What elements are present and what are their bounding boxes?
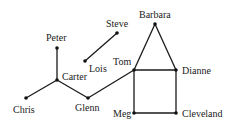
node-cleveland — [174, 111, 178, 115]
edge-glenn-tom — [88, 70, 134, 98]
node-barbara — [153, 22, 157, 26]
edge-carter-chris — [26, 80, 57, 98]
node-peter — [55, 46, 59, 50]
node-label-meg: Meg — [113, 108, 131, 119]
node-label-lois: Lois — [89, 63, 107, 74]
node-label-peter: Peter — [46, 32, 67, 43]
node-label-cleveland: Cleveland — [182, 108, 223, 119]
node-meg — [132, 111, 136, 115]
node-chris — [24, 96, 28, 100]
node-carter — [55, 78, 59, 82]
node-label-carter: Carter — [62, 71, 88, 82]
edge-barbara-dianne — [155, 24, 176, 70]
social-network-graph: PeterCarterChrisGlennLoisSteveTomBarbara… — [0, 0, 231, 125]
node-label-barbara: Barbara — [139, 9, 171, 20]
edge-tom-barbara — [134, 24, 155, 70]
node-label-steve: Steve — [106, 18, 129, 29]
node-dianne — [174, 68, 178, 72]
node-label-dianne: Dianne — [182, 65, 211, 76]
node-label-glenn: Glenn — [75, 102, 99, 113]
node-label-chris: Chris — [13, 104, 35, 115]
graph-labels: PeterCarterChrisGlennLoisSteveTomBarbara… — [13, 9, 223, 119]
node-lois — [83, 59, 87, 63]
node-tom — [132, 68, 136, 72]
edge-carter-glenn — [57, 80, 88, 98]
node-glenn — [86, 96, 90, 100]
node-label-tom: Tom — [113, 56, 131, 67]
node-steve — [115, 31, 119, 35]
